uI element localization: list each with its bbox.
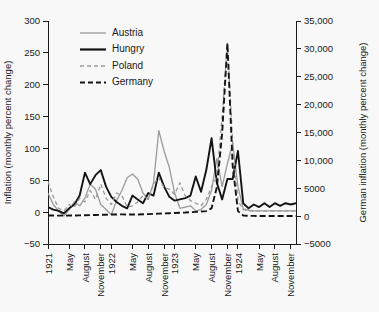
chart-legend: AustriaHungryPolandGermany <box>80 27 153 88</box>
y-axis-left-title: Inflation (monthly percent change) <box>2 61 13 205</box>
y-axis-left-tick-label: 300 <box>24 15 40 26</box>
legend-label-poland: Poland <box>112 60 143 71</box>
x-axis-tick-label: May <box>190 253 201 271</box>
x-axis-tick-label: August <box>143 253 154 283</box>
y-axis-right-tick-label: 15,000 <box>304 127 333 138</box>
y-axis-right-title: German inflation (monthly percent change… <box>357 42 368 222</box>
x-axis-tick-label: May <box>127 253 138 271</box>
series-line-germany <box>48 43 296 216</box>
x-axis-tick-label: 1921 <box>43 253 54 274</box>
series-group <box>48 43 296 216</box>
y-axis-right-tick-label: 20,000 <box>304 99 333 110</box>
x-axis-tick-label: November <box>285 253 296 297</box>
y-axis-left-tick-label: 0 <box>35 207 40 218</box>
y-axis-right-tick-label: 35,000 <box>304 15 333 26</box>
chart-canvas: −50050100150200250300−50000500010,00015,… <box>0 0 379 312</box>
x-axis-tick-label: May <box>254 253 265 271</box>
y-axis-right-tick-label: 5000 <box>304 183 325 194</box>
y-axis-right-tick-label: 30,000 <box>304 43 333 54</box>
x-axis-tick-label: 1922 <box>106 253 117 274</box>
x-axis-tick-label: May <box>64 253 75 271</box>
inflation-chart-figure: −50050100150200250300−50000500010,00015,… <box>0 0 379 312</box>
x-axis-tick-label: 1924 <box>233 253 244 274</box>
x-axis-tick-label: August <box>206 253 217 283</box>
y-axis-right-tick-label: 0 <box>304 211 309 222</box>
legend-label-germany: Germany <box>112 76 153 87</box>
legend-label-austria: Austria <box>112 27 144 38</box>
y-axis-right-tick-label: −5000 <box>304 238 331 249</box>
x-axis-tick-label: November <box>95 253 106 297</box>
legend-label-hungry: Hungry <box>112 43 144 54</box>
x-axis-tick-label: August <box>80 253 91 283</box>
y-axis-right-tick-label: 25,000 <box>304 71 333 82</box>
x-axis-tick-label: November <box>222 253 233 297</box>
x-axis-tick-label: 1923 <box>169 253 180 274</box>
x-axis-tick-label: August <box>269 253 280 283</box>
y-axis-right-tick-label: 10,000 <box>304 155 333 166</box>
y-axis-left-tick-label: 200 <box>24 79 40 90</box>
y-axis-left-tick-label: 100 <box>24 143 40 154</box>
series-line-poland <box>48 43 296 211</box>
y-axis-left-tick-label: 50 <box>29 175 40 186</box>
y-axis-left-tick-label: 250 <box>24 47 40 58</box>
y-axis-left-tick-label: 150 <box>24 111 40 122</box>
x-axis-tick-label: November <box>159 253 170 297</box>
y-axis-left-tick-label: −50 <box>24 238 40 249</box>
